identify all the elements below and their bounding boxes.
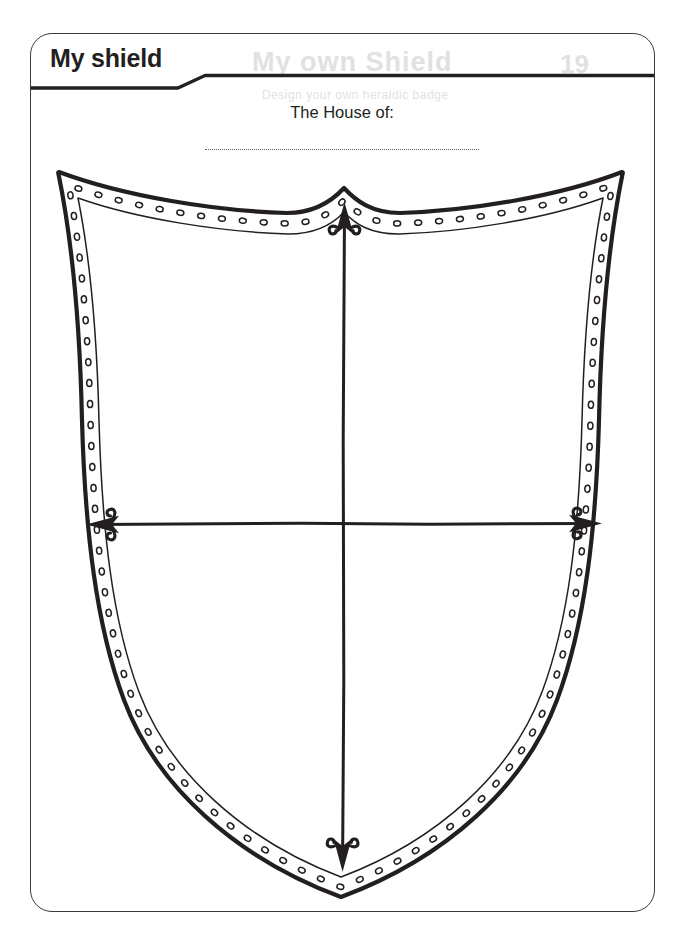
shield-rivet [579,548,585,556]
shield-rivet [589,380,594,387]
shield-illustration [0,0,684,945]
shield-rivet [592,317,598,324]
shield-rivet [110,629,117,637]
shield-rivet [115,197,123,204]
shield-rivet [281,221,288,226]
shield-rivet [573,589,579,597]
shield-rivet [569,610,575,618]
shield-rivet [260,220,267,226]
shield-rivet [239,218,246,224]
shield-rivet [586,464,592,471]
worksheet-page: My own Shield Design your own heraldic b… [0,0,684,945]
shield-rivet [539,202,547,209]
shield-rivet [81,296,87,303]
shield-rivet [302,219,310,225]
shield-rivet [394,221,401,226]
shield-rivet [559,650,566,658]
shield-rivet [607,192,613,200]
shield-rivet [585,485,591,492]
shield-rivet [89,442,94,449]
shield-rivet [596,275,602,282]
shield-rivet [414,220,421,226]
shield-body [58,172,623,897]
shield-rivet [518,206,526,212]
shield-rivet [456,216,464,222]
shield-rivet [71,212,77,220]
shield-rivet [99,568,105,576]
shield-rivet [115,650,122,658]
shield-rivet [77,254,83,262]
shield-rivet [88,421,93,428]
shield-rivet [91,484,97,491]
shield-rivet [87,400,92,407]
shield-rivet [79,275,85,282]
shield-rivet [197,213,205,219]
shield-rivet [176,210,184,216]
vertical-divider-line [343,212,345,862]
shield-rivet [67,191,73,199]
shield-rivet [105,609,111,617]
shield-rivet [594,296,600,303]
shield-rivet [135,202,143,209]
shield-rivet [477,213,485,219]
shield-rivet [565,630,572,638]
shield-rivet [90,463,96,470]
shield-rivet [591,338,597,345]
shield-rivet [435,218,442,224]
shield-rivet [583,506,589,513]
shield-rivet [588,422,593,429]
shield-rivet [87,379,92,386]
shield-rivet [74,233,80,241]
shield-rivet [601,234,607,242]
shield-rivet [588,401,593,408]
shield-inner-outline [78,198,603,877]
shield-rivet [604,213,610,221]
shield-rivet [598,255,604,263]
shield-rivet [96,547,102,555]
shield-rivet [559,197,567,204]
shield-rivet [218,216,226,222]
shield-rivet [156,206,164,212]
shield-rivet [84,338,90,345]
shield-rivet [92,505,98,512]
shield-rivet [336,883,344,890]
shield-rivet [83,317,89,324]
horizontal-divider-line [96,523,592,524]
shield-rivet [576,568,582,576]
shield-rivet [590,359,596,366]
shield-rivet [587,443,592,450]
shield-rivet [86,358,92,365]
shield-rivet [102,588,108,596]
shield-rivet [498,210,506,216]
